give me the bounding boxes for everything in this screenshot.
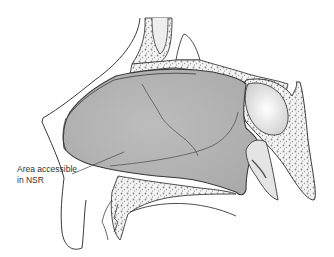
annotation-label: Area accessible in NSR	[17, 164, 77, 186]
annotation-line-1: Area accessible	[17, 164, 77, 175]
soft-palate-line	[130, 203, 236, 216]
annotation-line-2: in NSR	[17, 175, 77, 186]
crista-galli	[176, 34, 200, 60]
nasal-cavity-diagram	[0, 0, 334, 257]
